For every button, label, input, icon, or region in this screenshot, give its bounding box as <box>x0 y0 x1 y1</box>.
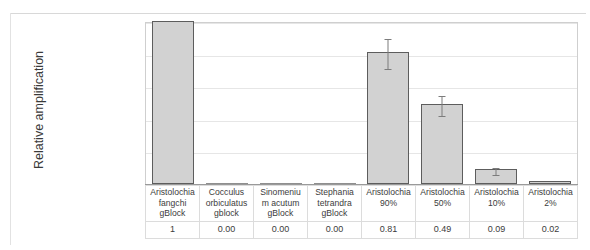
value-cell: 0.00 <box>200 222 254 239</box>
category-cell: Aristolochia50% <box>416 186 470 222</box>
category-label-line: 90% <box>362 198 415 209</box>
category-label-line: gblock <box>200 208 253 219</box>
category-label-line: 50% <box>416 198 469 209</box>
y-axis-title: Relative amplification <box>32 23 46 198</box>
error-bar <box>442 96 443 116</box>
bar <box>152 21 194 184</box>
value-cell: 0.09 <box>470 222 524 239</box>
category-label-line: Sinomeniu <box>254 187 307 198</box>
category-label-line: fangchi <box>146 198 199 209</box>
error-bar-cap <box>439 116 446 117</box>
category-label-line: Aristolochia <box>524 187 577 198</box>
value-cell: 0.00 <box>308 222 362 239</box>
error-bar-cap <box>493 175 500 176</box>
data-table: AristolochiafangchigBlockCocculusorbicul… <box>145 185 578 239</box>
category-label-line: gBlock <box>254 208 307 219</box>
category-label-line: 2% <box>524 198 577 209</box>
error-bar-cap <box>385 69 392 70</box>
bar-slot <box>308 23 362 184</box>
category-label-line: Stephania <box>308 187 361 198</box>
bar-chart-figure: Relative amplification 00.20.40.60.81 Ar… <box>0 14 590 250</box>
value-cell: 0.00 <box>254 222 308 239</box>
bar-slot <box>362 23 416 184</box>
error-bar <box>388 39 389 68</box>
bar-slot <box>523 23 577 184</box>
category-label-line: gBlock <box>308 208 361 219</box>
value-cell: 0.81 <box>362 222 416 239</box>
error-bar-cap <box>385 39 392 40</box>
error-bar-cap <box>439 96 446 97</box>
category-label-line: 10% <box>470 198 523 209</box>
error-bar-cap <box>493 168 500 169</box>
category-cell: Aristolochia10% <box>470 186 524 222</box>
category-cell: Aristolochia90% <box>362 186 416 222</box>
table-row-values: 10.000.000.000.810.490.090.02 <box>146 222 578 239</box>
category-cell: Sinomenium acutumgBlock <box>254 186 308 222</box>
value-cell: 0.02 <box>524 222 578 239</box>
category-label-line: gBlock <box>146 208 199 219</box>
bar <box>367 52 409 184</box>
category-label-line: Aristolochia <box>146 187 199 198</box>
bar-slot <box>146 23 200 184</box>
bar-slot <box>200 23 254 184</box>
category-label-line: m acutum <box>254 198 307 209</box>
plot-area <box>145 22 578 185</box>
bar-slot <box>469 23 523 184</box>
category-cell: Cocculusorbiculatusgblock <box>200 186 254 222</box>
value-cell: 1 <box>146 222 200 239</box>
category-label-line: Cocculus <box>200 187 253 198</box>
category-label-line: Aristolochia <box>362 187 415 198</box>
category-label-line: Aristolochia <box>416 187 469 198</box>
category-cell: Aristolochia2% <box>524 186 578 222</box>
category-label-line: orbiculatus <box>200 198 253 209</box>
table-row-categories: AristolochiafangchigBlockCocculusorbicul… <box>146 186 578 222</box>
value-cell: 0.49 <box>416 222 470 239</box>
category-cell: StephaniatetrandragBlock <box>308 186 362 222</box>
bar-slot <box>415 23 469 184</box>
category-label-line: Aristolochia <box>470 187 523 198</box>
bar-slot <box>254 23 308 184</box>
category-label-line: tetrandra <box>308 198 361 209</box>
category-cell: AristolochiafangchigBlock <box>146 186 200 222</box>
